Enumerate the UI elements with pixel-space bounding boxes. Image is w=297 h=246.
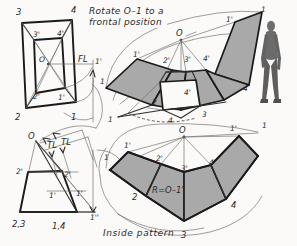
label-pict-4p: 4' [203,54,210,63]
label-front-base-right: 1,4 [52,221,66,231]
pictorial-ray-o-1p-right [181,22,235,40]
instruction-note: Rotate O–1 to a frontal position [89,6,167,28]
label-tl-right: TL [61,137,71,147]
label-tl-left: TL [47,140,57,150]
label-pattern-seam-right-1p: 1' [230,124,237,133]
label-pict-apex-o: O [176,28,183,38]
label-front-rotated-1pp: 1'' [90,213,99,222]
label-pattern-4p: 4' [209,158,216,167]
label-front-apex-o: O [28,131,35,141]
label-pict-2: 2 [152,98,157,107]
technical-drawing-page: Rotate O–1 to a frontal position 3 4 3' … [0,0,297,246]
label-pict-3: 3 [202,110,207,119]
label-pict-3p: 3' [184,55,191,64]
label-pict-1-bottom: 1 [108,115,113,124]
label-pattern-seam-left-1p: 1' [124,141,131,150]
label-pattern-apex-o: O [179,125,186,135]
label-pattern-radius: R=O–1' [152,185,184,195]
pictorial-panel-right [215,12,262,85]
front-view-full-triangle [20,141,95,212]
label-pattern-3p: 3' [181,164,188,173]
label-top-inner-3p: 3' [33,30,40,39]
label-top-corner-4: 4 [71,5,76,15]
label-pattern-2: 2 [132,192,137,202]
pictorial-ray-o-1p [137,40,181,59]
label-fold-line: FL [78,54,88,64]
label-pict-1p-right: 1' [226,15,233,24]
label-pattern-3: 3 [181,230,186,240]
label-pattern-4: 4 [231,200,236,210]
top-view-inner-rect [34,38,65,93]
pictorial-base-left-edge [118,105,152,117]
label-top-inner-1p: 1' [58,93,65,102]
label-front-mid-2p: 2' [64,170,71,179]
instruction-note-text: Rotate O–1 to a frontal position [89,6,164,27]
human-scale-figure [260,21,281,103]
transfer-line-right-a [82,130,93,160]
label-front-inner-1p: 1' [49,191,56,200]
rotation-arc-outer [76,78,93,102]
pattern-ray-o-1p-left [128,137,184,152]
label-pattern-2p: 2' [156,154,163,163]
rotation-arc-inner [65,68,92,88]
label-pict-4: 4 [168,116,173,125]
label-pattern-seam-left-1: 1 [104,153,109,162]
label-front-base-left: 2,3 [12,219,26,229]
transfer-line-right-b [88,137,97,167]
pictorial-frustum-face [160,80,200,110]
connector-curve-to-topview [92,84,102,128]
label-top-rotated-1p: 1' [95,57,102,66]
label-top-corner-3: 3 [16,7,21,17]
label-top-inner-4p: 4' [57,29,64,38]
pattern-ray-o-4p [184,137,211,165]
label-pict-2p: 2' [163,56,170,65]
label-front-left-2p: 2' [16,167,23,176]
label-top-corner-1: 1 [71,112,76,122]
label-pict-4-right: 4 [243,84,248,93]
label-top-corner-2: 2 [15,112,20,122]
drawing-canvas: Rotate O–1 to a frontal position 3 4 3' … [0,0,297,246]
pictorial-fold-line-b [148,108,163,110]
top-view-inner-diagonal-b [36,38,62,93]
label-pict-1-far-left: 1 [100,77,105,86]
label-top-apex-o: O [39,55,45,64]
label-pict-1p-left: 1' [133,50,140,59]
label-pict-4pp: 4' [184,88,191,97]
pattern-ray-o-2p [161,137,184,164]
figure-caption: Inside pattern [103,228,174,238]
label-front-mid-1p: 1' [76,189,83,198]
label-pict-1-far-right: 1 [261,5,266,14]
label-pattern-seam-right-1: 1 [262,121,267,130]
rotation-arc-base [64,113,93,120]
label-top-inner-2p: 2' [33,92,40,101]
